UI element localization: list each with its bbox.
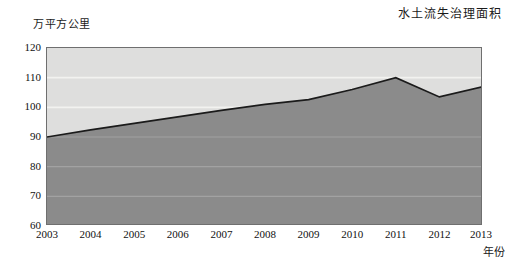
y-tick-label: 90	[15, 131, 41, 141]
y-axis-unit-label: 万平方公里	[33, 15, 91, 31]
x-tick-label: 2013	[470, 228, 492, 240]
area-fill	[47, 78, 482, 225]
x-tick-label: 2003	[36, 228, 58, 240]
x-tick-label: 2007	[210, 228, 232, 240]
plot-area	[46, 47, 482, 225]
y-tick-label: 70	[15, 190, 41, 200]
chart-title: 水土流失治理面积	[398, 4, 502, 22]
x-axis-tick-labels: 2003 2004 2005 2006 2007 2008 2009 2010 …	[0, 228, 516, 244]
x-tick-label: 2006	[167, 228, 189, 240]
y-tick-label: 120	[15, 42, 41, 52]
y-axis-tick-labels: 120 110 100 90 80 70 60	[11, 47, 41, 225]
area-chart-svg	[47, 48, 482, 225]
x-tick-label: 2005	[123, 228, 145, 240]
chart-container: 水土流失治理面积 万平方公里 120 110 100 90 80 70 60	[0, 0, 516, 265]
y-tick-label: 100	[15, 101, 41, 111]
y-tick-label: 110	[15, 72, 41, 82]
x-tick-label: 2008	[254, 228, 276, 240]
x-tick-label: 2012	[428, 228, 450, 240]
x-tick-label: 2010	[341, 228, 363, 240]
x-tick-label: 2011	[385, 228, 407, 240]
x-axis-label: 年份	[483, 243, 505, 259]
x-tick-label: 2004	[80, 228, 102, 240]
y-tick-label: 80	[15, 161, 41, 171]
x-tick-label: 2009	[298, 228, 320, 240]
